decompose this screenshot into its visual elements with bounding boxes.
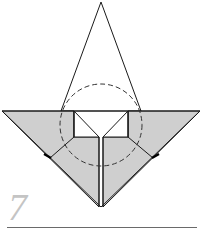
step-number: 7 xyxy=(8,188,27,226)
step-divider-rule xyxy=(7,227,197,228)
right-inner-white-triangle xyxy=(103,111,128,137)
left-inner-white-triangle xyxy=(74,111,99,137)
origami-fold-diagram xyxy=(0,0,203,232)
